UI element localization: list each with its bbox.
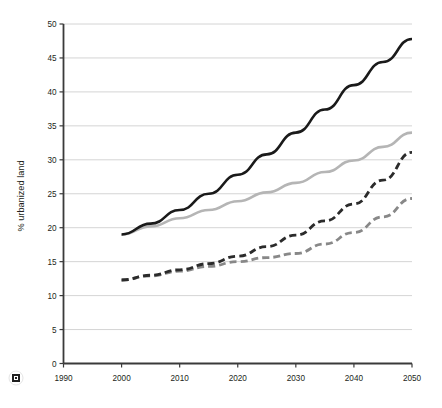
x-tick-label: 1990: [54, 374, 73, 383]
square-logo-icon: [8, 370, 24, 386]
line-chart: 05101520253035404550 1990200020102020203…: [0, 0, 442, 408]
y-tick-label: 20: [47, 224, 57, 233]
y-axis-title: % urbanized land: [16, 161, 26, 232]
x-tick-label: 2010: [171, 374, 190, 383]
y-tick-label: 25: [47, 190, 57, 199]
y-tick-label: 50: [47, 20, 57, 29]
y-tick-label: 0: [52, 360, 57, 369]
series-line-black-solid: [122, 39, 412, 235]
series-line-light-gray-solid: [122, 133, 412, 235]
y-axis-ticks: 05101520253035404550: [47, 20, 63, 369]
x-tick-label: 2020: [229, 374, 248, 383]
series-line-mid-gray-dashed: [122, 199, 412, 280]
x-tick-label: 2050: [403, 374, 422, 383]
gridlines: [64, 24, 413, 330]
y-tick-label: 5: [52, 326, 57, 335]
x-tick-label: 2040: [345, 374, 364, 383]
x-tick-label: 2030: [287, 374, 306, 383]
chart-container: 05101520253035404550 1990200020102020203…: [0, 0, 442, 408]
y-tick-label: 45: [47, 54, 57, 63]
y-tick-label: 15: [47, 258, 57, 267]
x-tick-label: 2000: [112, 374, 131, 383]
y-tick-label: 35: [47, 122, 57, 131]
y-tick-label: 30: [47, 156, 57, 165]
y-tick-label: 10: [47, 292, 57, 301]
x-axis-ticks: 1990200020102020203020402050: [54, 364, 421, 383]
y-tick-label: 40: [47, 88, 57, 97]
